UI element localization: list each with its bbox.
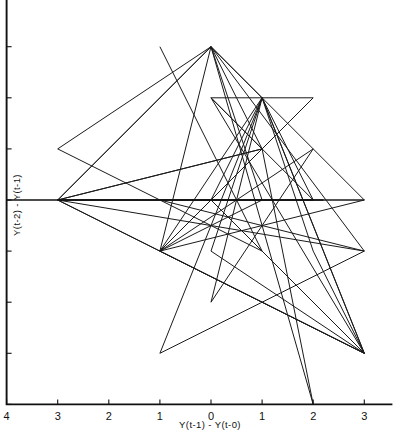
x-tick-label: 2 [106, 410, 112, 422]
x-axis-label: Y(t-1) - Y(t-0) [179, 419, 241, 430]
y-axis-label: Y(t-2) - Y(t-1) [11, 174, 22, 236]
x-tick-label: 3 [361, 410, 367, 422]
plot-background [0, 0, 420, 441]
figure: 43210123443210123 Y(t-1) - Y(t-0) Y(t-2)… [0, 0, 420, 441]
x-tick-label: 1 [157, 410, 163, 422]
x-tick-label: 1 [259, 410, 265, 422]
x-tick-label: 2 [310, 410, 316, 422]
lag-plot-chart: 43210123443210123 Y(t-1) - Y(t-0) Y(t-2)… [0, 0, 420, 441]
x-tick-label: 4 [4, 410, 10, 422]
x-tick-label: 3 [55, 410, 61, 422]
